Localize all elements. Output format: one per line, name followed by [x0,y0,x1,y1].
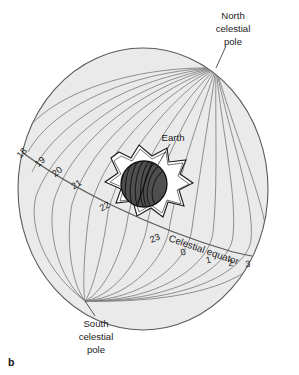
south-pole-line-3: pole [87,344,105,355]
earth-label: Earth [162,132,185,143]
south-pole-line-1: South [83,318,108,329]
north-pole-line-2: celestial [216,23,251,34]
south-pole-line-2: celestial [79,331,114,342]
north-pole-line-1: North [221,10,244,21]
panel-letter: b [8,356,14,368]
celestial-sphere-diagram: North celestial pole South celestial pol… [0,0,299,375]
hour-label-3: 3 [245,259,251,269]
north-pole-line-3: pole [224,36,242,47]
